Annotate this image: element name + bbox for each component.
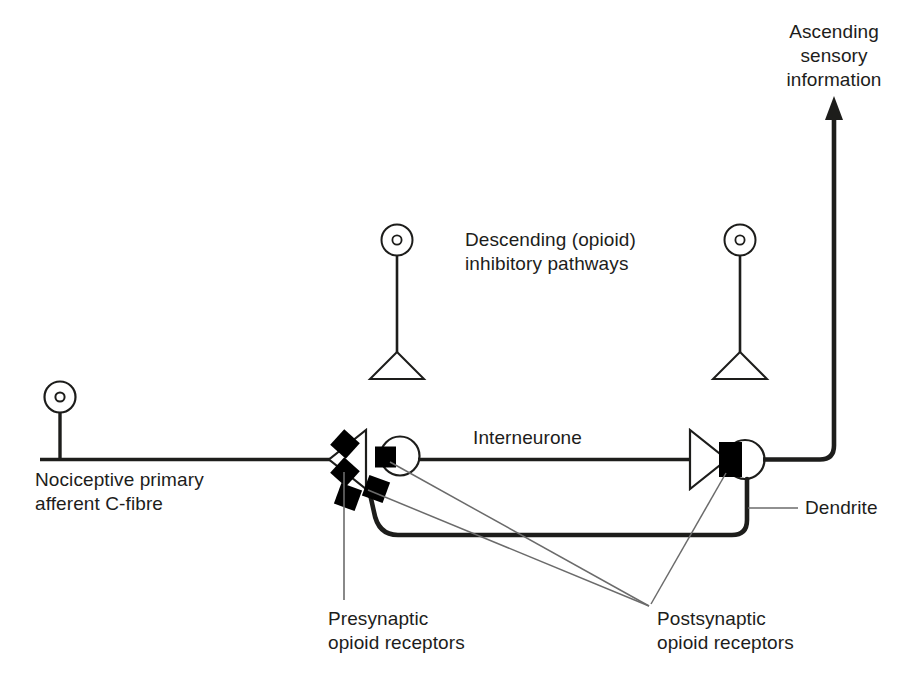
ascending-arrowhead-icon	[825, 96, 843, 120]
nociceptive-c-fibre-neuron	[40, 382, 333, 460]
descending-right-terminal-triangle	[713, 352, 767, 379]
descending-right-soma-nucleus	[735, 235, 744, 244]
presynaptic-terminal-bouton	[329, 429, 366, 489]
ascending-axon	[763, 112, 834, 460]
label-presynaptic-opioid-receptors: Presynaptic opioid receptors	[328, 607, 558, 655]
c-fibre-soma-nucleus	[55, 392, 64, 401]
descending-left-terminal-triangle	[370, 352, 424, 379]
label-ascending-sensory-information: Ascending sensory information	[744, 20, 924, 92]
diagram-canvas: Ascending sensory information Descending…	[0, 0, 924, 681]
label-descending-inhibitory-pathways: Descending (opioid) inhibitory pathways	[465, 228, 725, 276]
dendrite-opioid-receptor-2	[334, 483, 362, 511]
projection-postsynaptic-opioid-receptor	[719, 442, 742, 477]
label-dendrite: Dendrite	[805, 496, 878, 520]
label-nociceptive-primary-afferent-c-fibre: Nociceptive primary afferent C-fibre	[35, 468, 315, 516]
label-postsynaptic-opioid-receptors: Postsynaptic opioid receptors	[657, 607, 897, 655]
postsynaptic-leader-line-projection	[651, 473, 726, 604]
label-interneurone: Interneurone	[473, 426, 582, 450]
descending-neuron-left	[370, 225, 424, 380]
descending-left-soma-nucleus	[392, 235, 401, 244]
pain-pathway-schematic	[0, 0, 924, 681]
postsynaptic-leader-line-dendrite	[368, 490, 649, 606]
